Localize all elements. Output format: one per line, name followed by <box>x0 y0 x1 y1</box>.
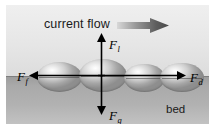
friction-force-symbol: F <box>17 69 25 84</box>
figure-panel: current flow <box>6 5 209 124</box>
force-balance-figure: current flow <box>0 0 214 132</box>
drag-force-arrow <box>98 70 186 81</box>
bed-label: bed <box>166 103 185 115</box>
drag-force-symbol: F <box>190 70 198 85</box>
friction-force-subscript: f <box>25 76 27 86</box>
lift-force-label: Fl <box>109 38 119 51</box>
lift-force-subscript: l <box>117 44 119 54</box>
gravity-force-subscript: g <box>117 115 121 125</box>
gravity-force-arrow <box>96 75 107 115</box>
friction-force-label: Ff <box>17 70 27 83</box>
drag-force-label: Fd <box>190 71 202 84</box>
drag-force-subscript: d <box>198 77 202 87</box>
gravity-force-label: Fg <box>109 109 121 122</box>
lift-force-symbol: F <box>109 37 117 52</box>
gravity-force-symbol: F <box>109 108 117 123</box>
friction-force-arrow <box>29 70 105 81</box>
